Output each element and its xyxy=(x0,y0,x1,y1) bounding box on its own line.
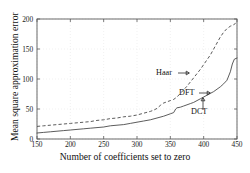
y-axis-title: Mean square approximation error xyxy=(9,12,20,141)
xtick-label-300: 300 xyxy=(132,140,143,149)
xtick-label-150: 150 xyxy=(32,140,43,149)
annotation-haar: Haar xyxy=(156,68,172,77)
gridlines xyxy=(37,19,237,139)
xtick-label-200: 200 xyxy=(65,140,76,149)
annotation-dft: DFT xyxy=(179,88,194,97)
haar-arrow-icon xyxy=(178,71,189,75)
xtick-label-350: 350 xyxy=(165,140,176,149)
xtick-label-400: 400 xyxy=(198,140,209,149)
xtick-label-450: 450 xyxy=(232,140,243,149)
series-line-dft xyxy=(37,58,237,133)
xtick-label-250: 250 xyxy=(98,140,109,149)
chart-figure: 200 150 100 50 0 150 200 250 300 350 400… xyxy=(0,0,250,173)
x-axis-title: Number of coefficients set to zero xyxy=(0,151,250,162)
dft-arrow-icon xyxy=(199,91,210,95)
annotation-dct: DCT xyxy=(191,107,207,116)
